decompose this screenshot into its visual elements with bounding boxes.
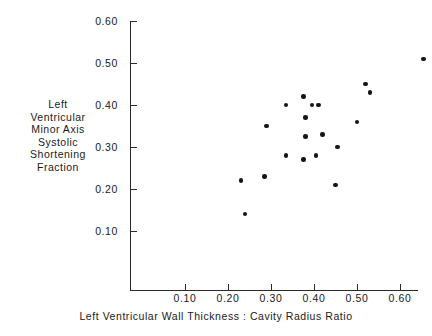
- y-axis-title-line: Systolic: [8, 136, 108, 149]
- x-tick-label: 0.10: [163, 292, 207, 304]
- data-point: [368, 90, 373, 95]
- data-point: [303, 115, 308, 120]
- x-tick-mark: [228, 284, 229, 290]
- x-axis-title: Left Ventricular Wall Thickness : Cavity…: [0, 310, 432, 322]
- x-tick-label: 0.20: [206, 292, 250, 304]
- y-tick-mark: [131, 63, 137, 64]
- y-axis-title-line: Left: [8, 98, 108, 111]
- data-point: [421, 57, 426, 62]
- x-tick-mark: [357, 284, 358, 290]
- y-tick-label: 0.20: [78, 183, 118, 195]
- x-tick-mark: [185, 284, 186, 290]
- data-point: [284, 153, 289, 158]
- x-tick-label: 0.60: [378, 292, 422, 304]
- data-point: [301, 157, 306, 162]
- x-tick-mark: [314, 284, 315, 290]
- data-point: [303, 134, 308, 139]
- x-tick-label: 0.30: [249, 292, 293, 304]
- y-tick-mark: [131, 21, 137, 22]
- y-axis-title-line: Fraction: [8, 161, 108, 174]
- data-point: [262, 174, 267, 179]
- data-point: [333, 183, 338, 188]
- x-tick-mark: [271, 284, 272, 290]
- y-axis-title: LeftVentricularMinor AxisSystolicShorten…: [8, 98, 108, 174]
- y-tick-mark: [131, 189, 137, 190]
- x-tick-label: 0.40: [292, 292, 336, 304]
- y-axis-title-line: Minor Axis: [8, 123, 108, 136]
- y-tick-mark: [131, 147, 137, 148]
- y-axis-title-line: Shortening: [8, 148, 108, 161]
- scatter-plot-figure: 0.600.500.400.300.200.10 0.100.200.300.4…: [0, 0, 432, 336]
- data-point: [316, 103, 321, 108]
- data-point: [239, 178, 244, 183]
- data-point: [264, 124, 269, 129]
- y-tick-label: 0.50: [78, 57, 118, 69]
- y-tick-label: 0.10: [78, 225, 118, 237]
- y-tick-label: 0.60: [78, 15, 118, 27]
- data-point: [363, 82, 368, 87]
- x-tick-mark: [400, 284, 401, 290]
- y-tick-mark: [131, 231, 137, 232]
- y-axis-title-line: Ventricular: [8, 111, 108, 124]
- data-point: [355, 120, 360, 125]
- y-tick-mark: [131, 105, 137, 106]
- y-axis-line: [130, 21, 131, 290]
- data-point: [320, 132, 325, 137]
- x-axis-line: [130, 290, 418, 291]
- data-point: [284, 103, 289, 108]
- data-point: [314, 153, 319, 158]
- x-tick-label: 0.50: [335, 292, 379, 304]
- data-point: [310, 103, 315, 108]
- data-point: [243, 212, 248, 217]
- data-point: [335, 145, 340, 150]
- data-point: [301, 94, 306, 99]
